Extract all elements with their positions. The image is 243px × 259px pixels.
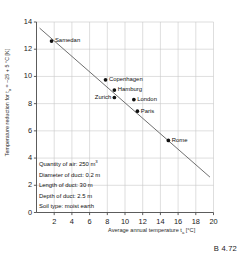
legend-line-text: Soil type: moist earth <box>39 203 94 209</box>
data-point-zurich <box>113 96 117 100</box>
data-point-copenhagen <box>104 78 108 82</box>
data-point-samedan <box>50 39 54 43</box>
legend-line: Soil type: moist earth <box>39 201 139 212</box>
data-point-rome <box>167 139 171 143</box>
point-label-hamburg: Hamburg <box>118 86 142 93</box>
figure-container: Temperature reduction for ta = –25 + 5 °… <box>0 0 243 259</box>
point-label-london: London <box>137 96 157 103</box>
plot-area <box>0 0 243 259</box>
legend-line: Quantity of air: 250 m3 <box>39 157 139 170</box>
point-label-zurich: Zurich <box>95 94 111 101</box>
data-point-hamburg <box>113 88 117 92</box>
figure-caption: B 4.72 <box>214 244 237 254</box>
point-label-paris: Paris <box>141 108 154 115</box>
legend-line-text: Depth of duct: 2.5 m <box>39 193 92 199</box>
legend-line-superscript: 3 <box>95 159 97 164</box>
legend-line-text: Diameter of duct: 0.2 m <box>39 172 100 178</box>
legend-line: Diameter of duct: 0.2 m <box>39 170 139 181</box>
parameters-legend: Quantity of air: 250 m3Diameter of duct:… <box>39 157 139 212</box>
legend-line: Depth of duct: 2.5 m <box>39 191 139 202</box>
legend-line: Length of duct: 30 m <box>39 180 139 191</box>
legend-line-text: Quantity of air: 250 m <box>39 161 95 167</box>
data-point-paris <box>136 109 140 113</box>
data-point-london <box>132 98 136 102</box>
point-label-rome: Rome <box>172 137 188 144</box>
point-label-samedan: Samedan <box>55 37 80 44</box>
legend-line-text: Length of duct: 30 m <box>39 182 93 188</box>
point-label-copenhagen: Copenhagen <box>109 76 143 83</box>
